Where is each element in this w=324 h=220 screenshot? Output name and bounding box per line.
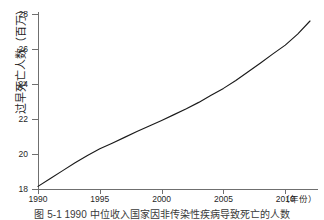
figure-caption: 图 5-1 1990 中位收入国家因非传染性疾病导致死亡的人数 [0,209,324,220]
series-plot [0,0,324,220]
chart-figure: 过早死亡人数（百万） 182022242628 1990199520002005… [0,0,324,220]
series-line-premature-deaths [38,21,310,186]
